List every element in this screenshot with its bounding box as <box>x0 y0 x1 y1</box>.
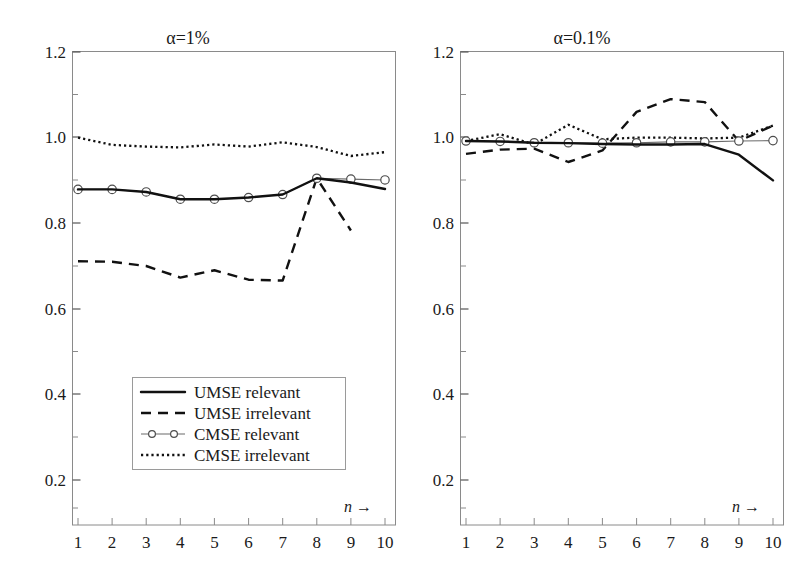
x-tick-label-6: 6 <box>244 533 253 552</box>
legend-marker-circle-b <box>171 431 178 438</box>
data-point-marker <box>769 136 777 144</box>
x-tick-label-7: 7 <box>278 533 287 552</box>
x-tick-label-r-2: 2 <box>496 533 505 552</box>
x-axis-arrow-icon-right: → <box>744 498 760 515</box>
y-tick-label-1-2: 1.2 <box>45 43 66 62</box>
x-axis-arrow-icon: → <box>356 498 372 515</box>
x-axis-name-group-left: n → <box>344 498 372 515</box>
x-axis-name-group-right: n → <box>732 498 760 515</box>
left-panel-svg: α=1% 1.2 1.0 0.8 0.6 <box>0 0 404 573</box>
y-axis-left: 1.2 1.0 0.8 0.6 0.4 0.2 <box>45 43 81 508</box>
data-point-marker <box>632 139 640 147</box>
y-tick-label-0-6: 0.6 <box>45 300 66 319</box>
panel-title-left: α=1% <box>166 28 210 48</box>
series-group-left <box>74 138 389 281</box>
x-tick-label-4: 4 <box>176 533 185 552</box>
x-tick-label-r-10: 10 <box>765 533 782 552</box>
x-tick-label-r-9: 9 <box>735 533 744 552</box>
chart-panel-alpha-0-1pct: α=0.1% 1.2 1.0 0.8 0.6 0.4 <box>404 0 807 573</box>
legend-label-3: CMSE irrelevant <box>194 446 310 465</box>
series-line-umse-irrelevant <box>466 99 773 162</box>
series-line-umse-relevant <box>466 141 773 180</box>
x-tick-label-r-8: 8 <box>701 533 710 552</box>
legend-marker-circle-a <box>149 431 156 438</box>
x-tick-label-3: 3 <box>142 533 151 552</box>
series-group-right <box>462 99 777 180</box>
x-axis-label-n: n <box>344 498 352 515</box>
x-axis-label-n-right: n <box>732 498 740 515</box>
y-tick-label-r-0-2: 0.2 <box>433 471 454 490</box>
series-line-umse-relevant <box>78 178 385 199</box>
legend-label-1: UMSE irrelevant <box>194 404 311 423</box>
x-tick-label-r-3: 3 <box>530 533 539 552</box>
x-tick-label-2: 2 <box>108 533 117 552</box>
plot-frame-right <box>461 52 784 526</box>
x-tick-label-r-4: 4 <box>564 533 573 552</box>
y-tick-label-r-1-0: 1.0 <box>433 128 454 147</box>
legend: UMSE relevant UMSE irrelevant CMSE relev… <box>133 378 346 470</box>
x-tick-label-r-1: 1 <box>462 533 471 552</box>
data-point-marker <box>735 137 743 145</box>
figure-root: α=1% 1.2 1.0 0.8 0.6 <box>0 0 807 573</box>
y-tick-label-1-0: 1.0 <box>45 128 66 147</box>
legend-label-0: UMSE relevant <box>194 383 301 402</box>
x-tick-label-10: 10 <box>377 533 394 552</box>
y-tick-label-0-4: 0.4 <box>45 385 67 404</box>
data-point-marker <box>381 176 389 184</box>
x-tick-label-1: 1 <box>74 533 83 552</box>
x-tick-label-9: 9 <box>347 533 356 552</box>
right-panel-title-group: α=0.1% <box>553 28 610 48</box>
y-tick-label-0-2: 0.2 <box>45 471 66 490</box>
legend-label-2: CMSE relevant <box>194 425 300 444</box>
panel-title-right: α=0.1% <box>553 28 610 48</box>
left-panel-title-group: α=1% <box>166 28 210 48</box>
right-panel-svg: α=0.1% 1.2 1.0 0.8 0.6 0.4 <box>404 0 807 573</box>
y-tick-label-r-0-6: 0.6 <box>433 300 454 319</box>
series-line-umse-irrelevant <box>78 178 351 280</box>
y-axis-right: 1.2 1.0 0.8 0.6 0.4 0.2 <box>433 43 469 508</box>
y-tick-label-r-0-8: 0.8 <box>433 214 454 233</box>
x-axis-left: 1 2 3 4 5 6 7 8 9 10 <box>74 518 394 552</box>
x-tick-label-r-7: 7 <box>666 533 675 552</box>
x-tick-label-r-6: 6 <box>632 533 641 552</box>
x-axis-right: 1 2 3 4 5 6 7 8 9 10 <box>462 518 782 552</box>
y-tick-label-r-1-2: 1.2 <box>433 43 454 62</box>
y-tick-label-r-0-4: 0.4 <box>433 385 455 404</box>
series-line-cmse-irrelevant <box>78 138 385 156</box>
y-tick-label-0-8: 0.8 <box>45 214 66 233</box>
x-tick-label-5: 5 <box>210 533 219 552</box>
chart-panel-alpha-1pct: α=1% 1.2 1.0 0.8 0.6 <box>0 0 404 573</box>
x-tick-label-8: 8 <box>313 533 322 552</box>
x-tick-label-r-5: 5 <box>598 533 607 552</box>
